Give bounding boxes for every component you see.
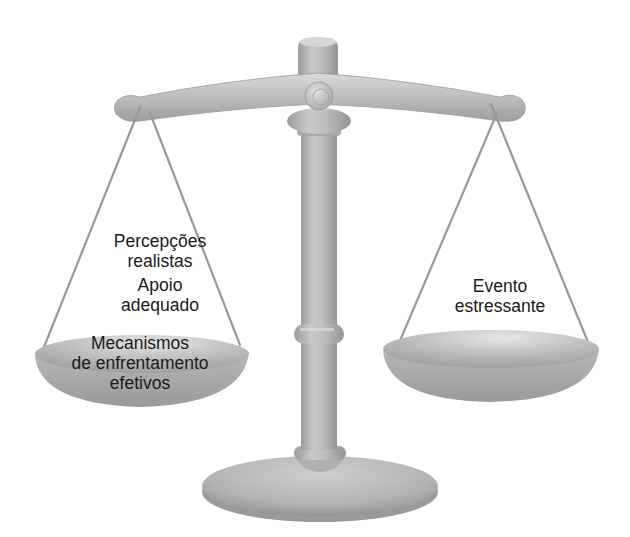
scale-column [294, 132, 344, 450]
scale-pivot-knob [305, 82, 333, 110]
label-adequate-support: Apoio adequado [80, 275, 240, 315]
label-line: estressante [420, 296, 580, 316]
label-realistic-perceptions: Percepções realistas [80, 231, 240, 271]
label-effective-coping-mechanisms: Mecanismos de enfrentamento efetivos [30, 333, 250, 393]
label-line: adequado [80, 295, 240, 315]
label-line: Evento [420, 276, 580, 296]
left-pan-strings [42, 107, 240, 352]
label-stressful-event: Evento estressante [420, 276, 580, 316]
label-line: Mecanismos [30, 333, 250, 353]
label-line: Apoio [80, 275, 240, 295]
label-line: de enfrentamento [30, 353, 250, 373]
scale-collar [287, 108, 351, 136]
right-pan [383, 330, 599, 402]
label-line: Percepções [80, 231, 240, 251]
label-line: realistas [80, 251, 240, 271]
label-line: efetivos [30, 373, 250, 393]
scale-base [202, 446, 438, 522]
